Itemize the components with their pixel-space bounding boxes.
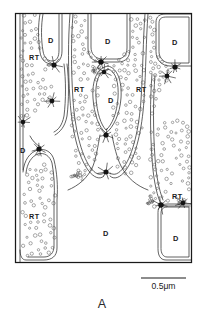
label-rt-8: RT [29,212,40,221]
label-rt-9: RT [172,192,183,201]
label-rt-6: RT [136,85,147,94]
diagram-frame [16,14,192,263]
label-d-5: D [108,96,114,105]
scale-bar-label: 0.5μm [151,281,175,291]
label-d-0: D [48,36,54,45]
scale-bar-group: 0.5μm [141,278,186,291]
label-d-7: D [20,146,26,155]
label-d-3: D [172,38,178,47]
label-d-11: D [173,234,179,243]
label-rt-1: RT [29,53,40,62]
cell-ultrastructure-diagram: DRTDDRTDRTDRTRTDD 0.5μm A [0,0,204,313]
label-d-10: D [103,229,109,238]
label-rt-4: RT [74,85,85,94]
label-d-2: D [105,37,111,46]
panel-letter: A [98,297,107,311]
figure-panel-a: DRTDDRTDRTDRTRTDD 0.5μm A [0,0,204,313]
